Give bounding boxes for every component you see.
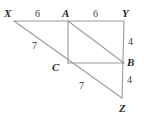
- vertex-label-b: B: [127, 57, 134, 68]
- segment-yz: [122, 21, 124, 98]
- vertex-label-c: C: [52, 62, 59, 73]
- measure-label-xa: 6: [35, 9, 40, 19]
- segment-ab: [68, 21, 124, 63]
- measure-label-bz: 4: [127, 75, 132, 85]
- vertex-label-x: X: [4, 8, 11, 19]
- measure-label-yb: 4: [128, 37, 133, 47]
- segment-layer: [14, 21, 124, 98]
- measure-label-cz: 7: [79, 81, 84, 91]
- geometry-figure: X A Y C B Z 6 6 7 7 4 4: [0, 0, 144, 120]
- vertex-label-a: A: [62, 8, 69, 19]
- measure-label-ay: 6: [93, 9, 98, 19]
- vertex-label-z: Z: [119, 103, 126, 114]
- vertex-label-y: Y: [122, 8, 129, 19]
- measure-label-xc: 7: [32, 41, 37, 51]
